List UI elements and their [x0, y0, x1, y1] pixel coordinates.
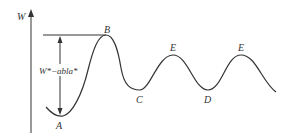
energy-diagram: W W*−abla* A B C E D E [0, 0, 301, 133]
energy-gap-label: W*−abla* [39, 66, 78, 76]
point-label-e1: E [169, 42, 176, 53]
point-label-c: C [136, 94, 143, 105]
y-axis-label: W [17, 11, 27, 22]
y-axis-arrow-icon [28, 9, 34, 17]
gap-arrow-up-icon [58, 36, 63, 43]
point-label-b: B [104, 24, 110, 35]
point-label-a: A [55, 120, 63, 131]
point-label-e2: E [237, 42, 244, 53]
gap-arrow-down-icon [58, 108, 63, 115]
point-label-d: D [203, 94, 212, 105]
